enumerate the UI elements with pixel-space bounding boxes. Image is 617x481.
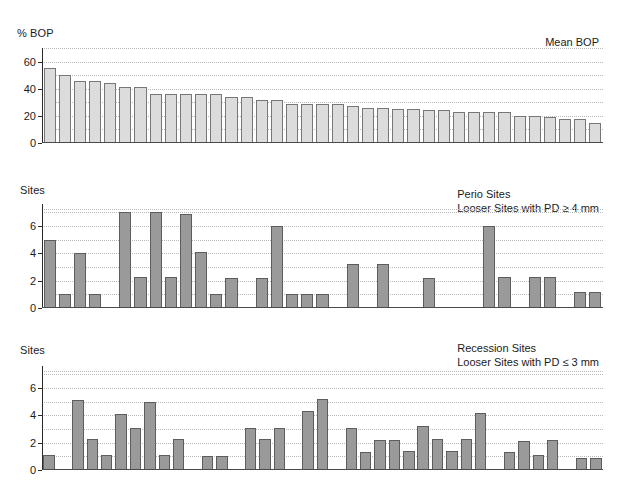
bar [475,413,487,470]
bar [43,455,55,470]
legend-bot-line1: Recession Sites [457,342,536,354]
x-axis-line-mid [42,307,603,308]
y-axis-tick-label: 4 [8,409,36,421]
bar [134,87,146,143]
y-axis-tick [38,443,42,444]
bar [446,451,458,470]
bar [216,456,228,470]
bar [377,108,389,143]
y-axis-tick-label: 0 [8,464,36,476]
y-axis-tick-label: 6 [8,220,36,232]
bar [286,104,298,143]
bar [74,253,86,308]
y-axis-tick [38,470,42,471]
chart-panel-perio-sites: Sites Perio Sites Looser Sites with PD ≥… [0,160,617,320]
bar [101,455,113,470]
y-axis-line-top [42,48,43,143]
bar [518,441,530,470]
x-axis-line-bot [42,469,603,470]
bar [301,294,313,308]
y-axis-tick [38,116,42,117]
chart-panel-recession-sites: Sites Recession Sites Looser Sites with … [0,320,617,481]
bar [130,428,142,470]
bar [159,455,171,470]
bar [559,119,571,143]
bar [89,294,101,308]
bar [241,97,253,143]
y-axis-tick [38,388,42,389]
y-axis-tick-label: 20 [8,110,36,122]
bar [423,110,435,143]
x-axis-line-top [42,142,603,143]
y-axis-line-mid [42,204,43,308]
bar [256,278,268,308]
bar [544,277,556,308]
bar [544,117,556,143]
bar [259,439,271,470]
bar [547,440,559,470]
bar [533,455,545,470]
plot-area-top: 0204060 [42,48,603,143]
bar [302,411,314,470]
plot-area-mid: 0246 [42,204,603,308]
y-axis-tick [38,415,42,416]
bar [504,452,516,470]
y-axis-line-bot [42,366,43,470]
bar [87,439,99,470]
y-axis-tick-label: 40 [8,83,36,95]
bar [195,252,207,308]
bars-bot [42,366,603,470]
y-axis-tick-label: 4 [8,247,36,259]
bar [210,294,222,308]
bar [274,428,286,470]
bar [316,104,328,143]
bar [286,294,298,308]
y-axis-tick [38,226,42,227]
y-axis-tick [38,143,42,144]
y-axis-tick-label: 0 [8,137,36,149]
bar [483,226,495,308]
bar [407,109,419,143]
bar [173,439,185,470]
bar [483,112,495,143]
bar [317,399,329,470]
bar [316,294,328,308]
bar [195,94,207,143]
bar [589,292,601,308]
bar [403,451,415,470]
bar [432,439,444,470]
bar [104,83,116,143]
y-axis-tick-label: 0 [8,302,36,314]
bar [529,116,541,143]
legend-mid-line1: Perio Sites [457,188,510,200]
bar [144,402,156,470]
y-axis-tick [38,281,42,282]
bar [59,75,71,143]
bar [119,87,131,143]
bar [347,106,359,143]
bar [115,414,127,470]
y-axis-tick [38,253,42,254]
bar [180,214,192,308]
bar [347,264,359,308]
y-axis-tick-label: 60 [8,56,36,68]
bar [589,123,601,143]
y-axis-tick-label: 6 [8,382,36,394]
bar [165,277,177,308]
bar [574,119,586,143]
bar [150,94,162,143]
plot-area-bot: 0246 [42,366,603,470]
bar [498,112,510,143]
bar [225,278,237,308]
bar [74,81,86,143]
y-axis-tick-label: 2 [8,275,36,287]
bar [271,100,283,143]
bar [301,104,313,143]
bar [332,104,344,143]
bar [150,212,162,308]
bar [89,81,101,143]
bar [574,292,586,308]
bar [346,428,358,470]
bar [360,452,372,470]
bar [498,277,510,308]
